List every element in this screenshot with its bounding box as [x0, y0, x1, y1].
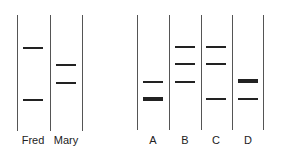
dna-band — [238, 98, 258, 100]
lane-label: D — [244, 134, 252, 146]
dna-band — [206, 98, 226, 100]
lane-divider-line — [137, 15, 138, 130]
lane-divider-line — [50, 15, 51, 131]
lane-divider-line — [169, 15, 170, 130]
dna-band — [175, 63, 195, 65]
dna-band — [23, 99, 43, 101]
dna-band — [206, 46, 226, 48]
dna-band — [56, 82, 76, 84]
lane-divider-line — [263, 15, 264, 130]
lane-label: Mary — [54, 134, 78, 146]
dna-band — [175, 81, 195, 83]
dna-band — [206, 63, 226, 65]
dna-band — [56, 64, 76, 66]
lane-divider-line — [232, 15, 233, 130]
lane-label: B — [181, 134, 188, 146]
lane-divider-line — [17, 15, 18, 131]
lane-label: C — [212, 134, 220, 146]
dna-band — [238, 79, 258, 83]
dna-band — [143, 81, 163, 83]
dna-band — [23, 47, 43, 49]
lane-label: A — [149, 134, 156, 146]
lane-divider-line — [201, 15, 202, 130]
lane-divider-line — [82, 15, 83, 131]
dna-band — [175, 46, 195, 48]
lane-label: Fred — [22, 134, 45, 146]
dna-band — [143, 97, 163, 101]
